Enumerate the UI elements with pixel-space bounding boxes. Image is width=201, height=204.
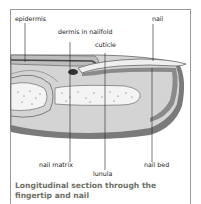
label-epidermis: epidermis [15,16,46,22]
label-dermis-in-nailfold: dermis in nailfold [58,29,112,35]
label-nail-matrix: nail matrix [39,162,73,168]
label-lunula: lunula [93,171,112,177]
label-cuticle: cuticle [95,42,116,48]
diagram-caption: Longitudinal section through the fingert… [15,181,195,201]
label-nail-bed: nail bed [144,162,169,168]
label-nail: nail [152,16,163,22]
